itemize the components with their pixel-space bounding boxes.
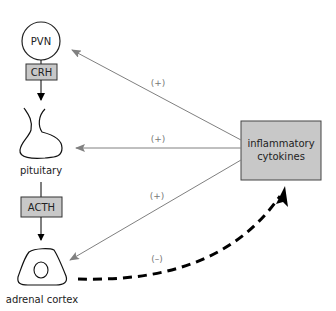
acth-node: ACTH <box>21 197 62 217</box>
adrenal-cortex-shape <box>18 249 67 285</box>
feedback-sign: (–) <box>151 254 163 264</box>
adrenal-sign: (+) <box>150 191 165 201</box>
hpa-diagram: PVN CRH pituitary ACTH adrenal cortex in… <box>0 0 336 311</box>
cytokines-label-line2: cytokines <box>257 151 305 162</box>
pituitary-label: pituitary <box>20 165 62 176</box>
acth-label: ACTH <box>28 202 55 213</box>
pituitary-shape <box>20 108 62 158</box>
cytokines-to-adrenal-arrow <box>70 160 241 260</box>
cytokines-node: inflammatory cytokines <box>241 121 321 180</box>
pvn-sign: (+) <box>151 78 166 88</box>
crh-node: CRH <box>26 64 57 80</box>
adrenal-cortex-label: adrenal cortex <box>6 294 79 305</box>
cytokines-to-pvn-arrow <box>72 50 241 140</box>
crh-label: CRH <box>31 67 52 78</box>
cytokines-label-line1: inflammatory <box>247 138 314 149</box>
pvn-node: PVN <box>22 22 60 60</box>
pvn-label: PVN <box>31 36 51 47</box>
pituitary-sign: (+) <box>151 134 166 144</box>
